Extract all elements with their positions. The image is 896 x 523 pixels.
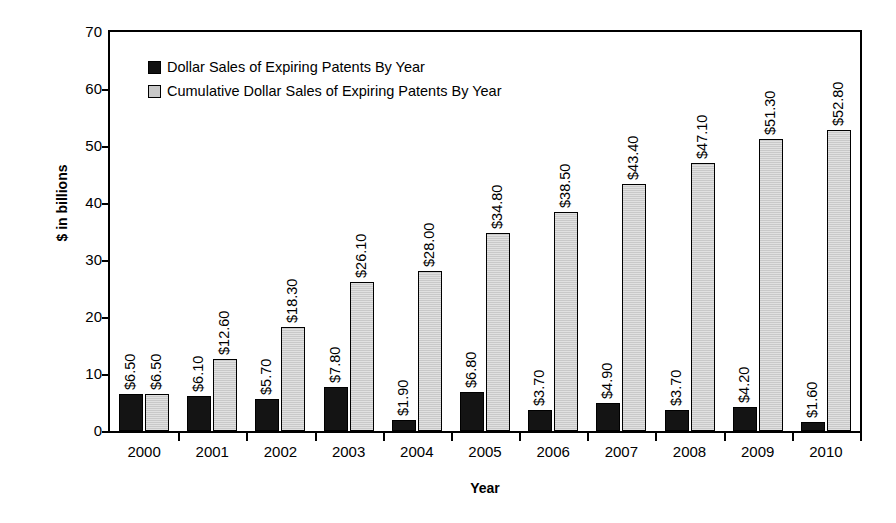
y-tick-label: 20 — [66, 309, 102, 324]
bar-value-label: $28.00 — [422, 223, 437, 267]
y-tick-label: 50 — [66, 138, 102, 153]
y-tick-label: 70 — [66, 24, 102, 39]
plot-inner: Dollar Sales of Expiring Patents By Year… — [110, 32, 860, 431]
x-tick-label: 2009 — [724, 444, 792, 460]
y-tick-mark — [102, 260, 109, 262]
bar-dollar-sales[interactable] — [665, 410, 689, 431]
bar-value-label: $6.50 — [123, 354, 138, 390]
plot-area: Dollar Sales of Expiring Patents By Year… — [108, 30, 862, 433]
x-tick-mark — [519, 433, 521, 441]
legend-item-dollar-sales: Dollar Sales of Expiring Patents By Year — [148, 60, 501, 75]
bar-value-label: $6.10 — [191, 356, 206, 392]
bar-cumulative-dollar-sales[interactable] — [827, 130, 851, 431]
bar-value-label: $38.50 — [558, 163, 573, 207]
bar-cumulative-dollar-sales[interactable] — [281, 327, 305, 431]
y-tick-label: 30 — [66, 252, 102, 267]
legend-label-cumulative-dollar-sales: Cumulative Dollar Sales of Expiring Pate… — [167, 84, 501, 99]
bar-group: $3.70$47.10 — [655, 32, 723, 431]
x-tick-mark — [246, 433, 248, 441]
bar-cumulative-dollar-sales[interactable] — [554, 212, 578, 431]
legend-swatch-icon-light — [148, 85, 161, 98]
bar-value-label: $1.90 — [396, 380, 411, 416]
bar-value-label: $6.80 — [464, 352, 479, 388]
x-tick-mark — [178, 433, 180, 441]
bar-cumulative-dollar-sales[interactable] — [418, 271, 442, 431]
x-tick-mark — [383, 433, 385, 441]
bar-dollar-sales[interactable] — [733, 407, 757, 431]
bar-value-label: $6.50 — [149, 354, 164, 390]
y-tick-mark — [102, 89, 109, 91]
bar-value-label: $4.20 — [737, 367, 752, 403]
bar-cumulative-dollar-sales[interactable] — [486, 233, 510, 431]
legend-item-cumulative-dollar-sales: Cumulative Dollar Sales of Expiring Pate… — [148, 84, 501, 99]
x-tick-label: 2007 — [587, 444, 655, 460]
bar-dollar-sales[interactable] — [596, 403, 620, 431]
bar-group: $3.70$38.50 — [519, 32, 587, 431]
bar-value-label: $1.60 — [805, 382, 820, 418]
bar-dollar-sales[interactable] — [187, 396, 211, 431]
x-tick-mark — [587, 433, 589, 441]
bar-value-label: $52.80 — [831, 82, 846, 126]
bar-cumulative-dollar-sales[interactable] — [691, 163, 715, 431]
bar-group: $4.90$43.40 — [587, 32, 655, 431]
x-tick-mark — [451, 433, 453, 441]
x-tick-mark — [655, 433, 657, 441]
legend-label-dollar-sales: Dollar Sales of Expiring Patents By Year — [167, 60, 425, 75]
y-tick-mark — [102, 374, 109, 376]
bar-dollar-sales[interactable] — [255, 399, 279, 431]
bar-value-label: $5.70 — [259, 358, 274, 394]
x-tick-label: 2005 — [451, 444, 519, 460]
bar-cumulative-dollar-sales[interactable] — [622, 184, 646, 431]
y-tick-label: 0 — [66, 423, 102, 438]
bar-group: $4.20$51.30 — [724, 32, 792, 431]
bar-group: $1.60$52.80 — [792, 32, 860, 431]
x-tick-label: 2002 — [246, 444, 314, 460]
chart-container: $ in billions 010203040506070 Dollar Sal… — [0, 0, 896, 523]
x-tick-label: 2001 — [178, 444, 246, 460]
bar-dollar-sales[interactable] — [392, 420, 416, 431]
y-tick-label: 40 — [66, 195, 102, 210]
y-tick-label: 10 — [66, 366, 102, 381]
x-tick-mark — [315, 433, 317, 441]
x-tick-label: 2004 — [383, 444, 451, 460]
x-tick-label: 2010 — [792, 444, 860, 460]
bar-value-label: $4.90 — [600, 363, 615, 399]
bar-cumulative-dollar-sales[interactable] — [213, 359, 237, 431]
bar-value-label: $7.80 — [328, 346, 343, 382]
x-tick-mark — [724, 433, 726, 441]
bar-dollar-sales[interactable] — [801, 422, 825, 431]
bar-cumulative-dollar-sales[interactable] — [350, 282, 374, 431]
y-tick-mark — [102, 146, 109, 148]
bar-dollar-sales[interactable] — [460, 392, 484, 431]
bar-value-label: $18.30 — [285, 278, 300, 322]
x-tick-mark — [860, 433, 862, 441]
legend: Dollar Sales of Expiring Patents By Year… — [148, 60, 501, 108]
y-tick-mark — [102, 203, 109, 205]
x-tick-label: 2008 — [655, 444, 723, 460]
bar-dollar-sales[interactable] — [324, 387, 348, 431]
y-tick-label: 60 — [66, 81, 102, 96]
x-tick-label: 2003 — [315, 444, 383, 460]
legend-swatch-icon-dark — [148, 61, 161, 74]
bar-cumulative-dollar-sales[interactable] — [759, 139, 783, 431]
bar-value-label: $34.80 — [490, 184, 505, 228]
bar-value-label: $3.70 — [532, 370, 547, 406]
bar-value-label: $26.10 — [354, 234, 369, 278]
bar-value-label: $43.40 — [626, 135, 641, 179]
x-tick-label: 2000 — [110, 444, 178, 460]
x-tick-label: 2006 — [519, 444, 587, 460]
bar-value-label: $47.10 — [695, 114, 710, 158]
bar-value-label: $12.60 — [217, 311, 232, 355]
bar-value-label: $51.30 — [763, 90, 778, 134]
x-tick-mark — [792, 433, 794, 441]
bar-value-label: $3.70 — [669, 370, 684, 406]
bar-dollar-sales[interactable] — [119, 394, 143, 431]
y-axis-ticks: 010203040506070 — [60, 0, 102, 523]
x-axis-title: Year — [108, 480, 862, 496]
y-tick-mark — [102, 317, 109, 319]
y-tick-mark — [102, 431, 109, 433]
bar-cumulative-dollar-sales[interactable] — [145, 394, 169, 431]
bar-dollar-sales[interactable] — [528, 410, 552, 431]
